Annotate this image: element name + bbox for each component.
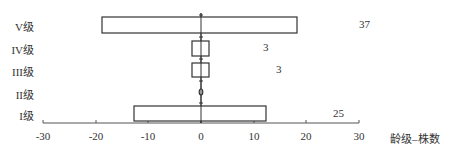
category-label-iii: III级 — [0, 63, 34, 79]
kite-chart — [0, 0, 452, 156]
x-axis-title: 龄级–株数 — [390, 130, 440, 146]
category-label-v: V级 — [0, 18, 34, 34]
value-label-iii: 3 — [276, 63, 282, 75]
category-label-i: I级 — [0, 107, 34, 123]
x-tick-label: 30 — [344, 130, 374, 142]
x-tick-label: -30 — [28, 130, 58, 142]
x-tick-label: -20 — [81, 130, 111, 142]
x-tick-label: -10 — [133, 130, 163, 142]
x-tick-label: 20 — [291, 130, 321, 142]
value-label-i: 25 — [333, 107, 344, 119]
x-tick-label: 10 — [239, 130, 269, 142]
category-label-iv: IV级 — [0, 41, 34, 57]
bar-i-grade — [134, 106, 266, 121]
bar-v-grade — [102, 17, 297, 33]
x-tick-label: 0 — [186, 130, 216, 142]
category-label-ii: II级 — [0, 86, 34, 102]
value-label-iv: 3 — [263, 41, 269, 53]
value-label-v: 37 — [359, 18, 370, 30]
